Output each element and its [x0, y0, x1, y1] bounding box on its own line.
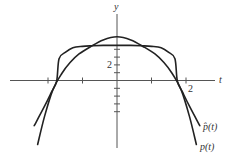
x-tick-label: 2: [188, 83, 193, 94]
y-axis-label: y: [113, 1, 119, 12]
chart: t y 2 2 p̂(t) p(t): [0, 0, 232, 160]
legend-label-p-hat: p̂(t): [202, 121, 218, 133]
legend-label-p: p(t): [199, 141, 215, 153]
x-axis-label: t: [219, 74, 222, 85]
y-tick-label: 2: [107, 59, 112, 70]
